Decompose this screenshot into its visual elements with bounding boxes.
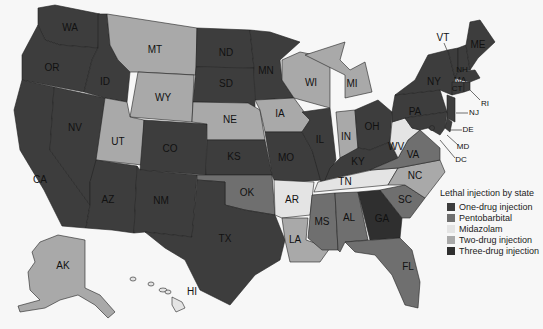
- legend-item-three-drug: Three-drug injection: [440, 245, 539, 256]
- label-mo: MO: [278, 152, 294, 163]
- legend-item-pentobarbital: Pentobarbital: [440, 212, 539, 223]
- state-fl[interactable]: [345, 238, 420, 308]
- label-ne: NE: [223, 114, 237, 125]
- label-ri: RI: [481, 99, 489, 108]
- label-dc: DC: [455, 155, 467, 164]
- legend-item-midazolam: Midazolam: [440, 223, 539, 234]
- label-nm: NM: [153, 195, 169, 206]
- label-oh: OH: [365, 121, 380, 132]
- leader-ri: [470, 90, 480, 100]
- label-nj: NJ: [469, 108, 479, 117]
- state-ny[interactable]: [395, 50, 455, 95]
- label-de: DE: [462, 125, 473, 134]
- label-sc: SC: [398, 194, 412, 205]
- label-il: IL: [316, 134, 325, 145]
- label-tx: TX: [219, 233, 232, 244]
- legend-swatch: [447, 236, 455, 244]
- legend-swatch: [447, 247, 455, 255]
- leader-dc: [440, 140, 455, 158]
- label-ut: UT: [111, 136, 124, 147]
- label-co: CO: [163, 143, 178, 154]
- label-mn: MN: [258, 65, 274, 76]
- us-map: WA OR CA NV ID MT WY UT AZ CO NM ND SD N…: [0, 0, 543, 329]
- label-ky: KY: [351, 156, 365, 167]
- label-ny: NY: [427, 76, 441, 87]
- legend-label: Three-drug injection: [459, 246, 539, 256]
- label-ga: GA: [375, 213, 390, 224]
- label-sd: SD: [219, 78, 233, 89]
- label-wa: WA: [62, 22, 78, 33]
- label-ok: OK: [240, 187, 255, 198]
- label-tn: TN: [338, 176, 351, 187]
- label-in: IN: [341, 131, 351, 142]
- state-dc[interactable]: [430, 126, 435, 131]
- label-or: OR: [45, 62, 60, 73]
- label-mt: MT: [148, 44, 162, 55]
- legend-label: Pentobarbital: [459, 213, 512, 223]
- label-me: ME: [471, 39, 486, 50]
- label-ma: MA: [454, 75, 467, 84]
- label-mi: MI: [346, 78, 357, 89]
- label-ca: CA: [33, 174, 47, 185]
- legend-label: Two-drug injection: [459, 235, 532, 245]
- label-al: AL: [343, 212, 356, 223]
- label-ia: IA: [275, 108, 285, 119]
- legend-item-two-drug: Two-drug injection: [440, 234, 539, 245]
- legend-item-one-drug: One-drug injection: [440, 201, 539, 212]
- legend-title: Lethal injection by state: [440, 188, 539, 198]
- legend-swatch: [447, 214, 455, 222]
- label-az: AZ: [102, 194, 115, 205]
- label-va: VA: [407, 149, 420, 160]
- label-nc: NC: [408, 170, 422, 181]
- label-ak: AK: [56, 260, 70, 271]
- label-nd: ND: [219, 47, 233, 58]
- state-ak[interactable]: [18, 235, 115, 318]
- legend-label: One-drug injection: [459, 202, 533, 212]
- label-nv: NV: [68, 122, 82, 133]
- label-wv: WV: [388, 141, 404, 152]
- label-ms: MS: [315, 216, 330, 227]
- legend: Lethal injection by state One-drug injec…: [440, 188, 539, 256]
- label-nh: NH: [456, 65, 468, 74]
- label-fl: FL: [402, 261, 414, 272]
- state-hi[interactable]: [130, 277, 185, 312]
- label-pa: PA: [409, 106, 422, 117]
- label-id: ID: [100, 76, 110, 87]
- label-hi: HI: [187, 286, 197, 297]
- state-nj[interactable]: [447, 95, 455, 122]
- label-la: LA: [289, 234, 302, 245]
- label-wi: WI: [305, 77, 317, 88]
- label-wy: WY: [155, 92, 171, 103]
- legend-swatch: [447, 203, 455, 211]
- label-md: MD: [457, 142, 470, 151]
- label-ct: CT: [452, 84, 463, 93]
- label-ks: KS: [227, 151, 241, 162]
- legend-label: Midazolam: [459, 224, 503, 234]
- legend-swatch: [447, 225, 455, 233]
- label-vt: VT: [437, 32, 450, 43]
- label-ar: AR: [285, 194, 299, 205]
